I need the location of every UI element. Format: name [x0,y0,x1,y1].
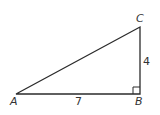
triangle-abc [16,27,140,94]
side-label-ab: 7 [75,95,82,108]
vertex-label-c: C [136,12,144,25]
vertex-label-b: B [135,95,143,108]
side-label-bc: 4 [143,55,150,68]
right-angle-marker [133,87,140,94]
triangle-diagram: A B C 7 4 [0,0,160,115]
vertex-label-a: A [9,95,18,108]
